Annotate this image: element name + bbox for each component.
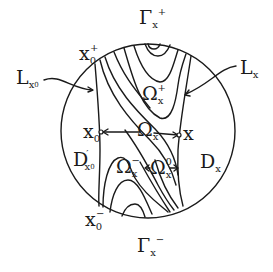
omega-symbol: Ω	[142, 82, 158, 104]
pointer-L-x0	[44, 79, 92, 90]
omega-symbol: Ω	[116, 155, 132, 177]
omega-symbol: Ω	[150, 156, 166, 178]
subscript: x	[166, 169, 172, 180]
base: x	[183, 122, 194, 144]
superscript: −	[156, 234, 164, 245]
base: x	[79, 42, 90, 64]
label-omega-minus: Ωx−	[116, 157, 146, 176]
base: L	[240, 56, 253, 78]
gamma-symbol: Γ	[137, 234, 150, 256]
upper-u-mid	[134, 46, 178, 82]
base: x	[83, 120, 94, 142]
lower-u-mid	[110, 180, 152, 214]
subscript: x	[152, 19, 158, 30]
sub-subscript: 0	[34, 81, 38, 89]
label-L-x0: Lx0	[16, 68, 39, 87]
subscript: 0	[96, 221, 102, 232]
subscript: x	[132, 168, 138, 179]
label-x: x	[183, 124, 194, 143]
subscript: x	[158, 95, 164, 106]
superscript: 0	[165, 156, 171, 167]
point-x	[177, 133, 181, 137]
base: L	[16, 66, 29, 88]
label-omega-plus: Ωx+	[142, 84, 172, 103]
subscript: 0	[90, 55, 96, 66]
subscript: x	[253, 69, 259, 80]
subscript: x	[215, 163, 221, 174]
label-gamma-plus: Γx+	[139, 8, 166, 27]
label-D-prime-x0: D′x0	[73, 150, 101, 169]
subscript: x	[150, 247, 156, 258]
superscript: −	[131, 155, 139, 166]
label-omega-center: Ωx	[137, 120, 158, 139]
label-x0-plus: x0+	[79, 44, 104, 63]
label-x0: x0	[83, 122, 100, 141]
superscript: +	[157, 82, 165, 93]
base: x	[85, 208, 96, 230]
superscript: +	[158, 6, 166, 17]
omega-symbol: Ω	[137, 118, 153, 140]
base: D	[200, 150, 215, 172]
label-x0-minus: x0−	[85, 210, 110, 229]
superscript: +	[90, 42, 98, 53]
label-L-x: Lx	[240, 58, 258, 77]
superscript: −	[96, 208, 104, 219]
sub-subscript: 0	[90, 163, 94, 171]
subscript: 0	[94, 133, 100, 144]
label-gamma-minus: Γx−	[137, 236, 164, 255]
prime: ′	[86, 148, 88, 159]
subscript: x	[153, 131, 159, 142]
gamma-symbol: Γ	[139, 6, 152, 28]
label-omega-zero: Ωx0	[150, 158, 178, 177]
label-D-x: Dx	[200, 152, 221, 171]
